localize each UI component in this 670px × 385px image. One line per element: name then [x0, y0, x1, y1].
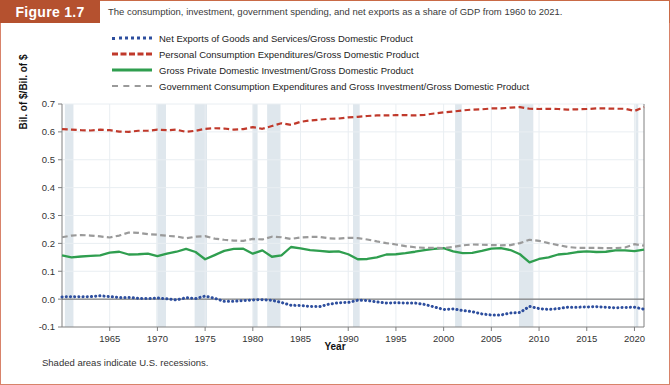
- chart-legend: Net Exports of Goods and Services/Gross …: [112, 31, 612, 95]
- legend-label-investment: Gross Private Domestic Investment/Gross …: [159, 65, 413, 76]
- legend-item-consumption: Personal Consumption Expenditures/Gross …: [112, 47, 612, 61]
- x-axis-label: Year: [0, 341, 670, 352]
- legend-label-net-exports: Net Exports of Goods and Services/Gross …: [159, 33, 413, 44]
- figure-caption: The consumption, investment, government …: [108, 7, 563, 17]
- figure-number-tag: Figure 1.7: [0, 0, 100, 24]
- legend-swatch-dotted-icon: [112, 32, 152, 44]
- figure-caption-box: The consumption, investment, government …: [100, 0, 670, 24]
- y-axis-label: Bil. of $/Bil. of $: [18, 32, 29, 152]
- legend-swatch-dashed-red-icon: [112, 48, 152, 60]
- legend-swatch-dashed-gray-icon: [112, 80, 152, 92]
- legend-item-government: Government Consumption Expenditures and …: [112, 79, 612, 93]
- legend-swatch-solid-green-icon: [112, 64, 152, 76]
- figure-header: Figure 1.7 The consumption, investment, …: [0, 0, 670, 24]
- figure-container: Figure 1.7 The consumption, investment, …: [0, 0, 670, 385]
- chart-footnote: Shaded areas indicate U.S. recessions.: [42, 357, 208, 368]
- legend-item-net-exports: Net Exports of Goods and Services/Gross …: [112, 31, 612, 45]
- legend-label-government: Government Consumption Expenditures and …: [159, 81, 529, 92]
- legend-item-investment: Gross Private Domestic Investment/Gross …: [112, 63, 612, 77]
- legend-label-consumption: Personal Consumption Expenditures/Gross …: [159, 49, 419, 60]
